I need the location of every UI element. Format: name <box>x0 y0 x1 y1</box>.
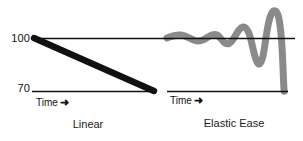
linear-time-axis-label: Time ➜ <box>36 97 69 108</box>
linear-easing-curve <box>34 38 154 91</box>
elastic-time-text: Time <box>170 95 192 106</box>
linear-panel-graphics <box>32 38 154 92</box>
elastic-time-axis-label: Time ➜ <box>170 95 203 106</box>
elastic-panel-caption: Elastic Ease <box>178 117 290 129</box>
arrow-right-icon: ➜ <box>194 95 203 106</box>
arrow-right-icon: ➜ <box>60 97 69 108</box>
y-axis-label-100: 100 <box>2 32 30 44</box>
linear-panel-caption: Linear <box>40 118 136 130</box>
elastic-easing-curve <box>167 11 284 91</box>
elastic-panel-graphics <box>150 11 295 92</box>
linear-time-text: Time <box>36 97 58 108</box>
easing-comparison-figure: 100 70 Time ➜ Time ➜ Linear Elastic Ease <box>0 0 303 141</box>
y-axis-label-70: 70 <box>2 82 30 94</box>
